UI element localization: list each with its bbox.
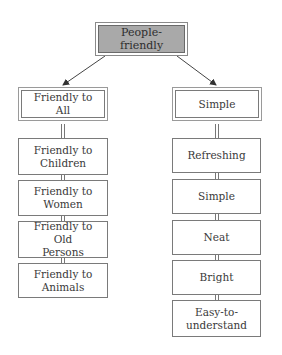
arrow-root-to-friendly-to-all — [63, 56, 105, 85]
branch-node-friendly-to-all: Friendly to All — [21, 90, 105, 118]
leaf-label: Easy-to- understand — [182, 306, 251, 332]
leaf-node-friendly-to-old-persons: Friendly to Old Persons — [18, 221, 108, 258]
leaf-label: Friendly to Old Persons — [19, 220, 107, 259]
leaf-label: Refreshing — [183, 149, 249, 162]
arrow-root-to-simple — [177, 56, 216, 85]
root-node-people-friendly: People-friendly — [98, 25, 185, 53]
leaf-node-friendly-to-animals: Friendly to Animals — [18, 263, 108, 298]
leaf-label: Simple — [194, 190, 239, 203]
leaf-label: Bright — [196, 271, 238, 284]
leaf-node-friendly-to-women: Friendly to Women — [18, 180, 108, 216]
root-label: People-friendly — [99, 26, 184, 52]
branch-node-simple: Simple — [175, 90, 259, 118]
people-friendly-diagram: People-friendly Friendly to All Friendly… — [0, 0, 282, 355]
leaf-node-refreshing: Refreshing — [172, 138, 261, 173]
leaf-node-friendly-to-children: Friendly to Children — [18, 138, 108, 175]
leaf-label: Friendly to Animals — [30, 268, 97, 294]
leaf-label: Neat — [200, 231, 234, 244]
branch-label: Simple — [195, 98, 240, 111]
leaf-label: Friendly to Children — [30, 144, 97, 170]
leaf-node-bright: Bright — [172, 260, 261, 295]
leaf-node-neat: Neat — [172, 220, 261, 255]
branch-label: Friendly to All — [22, 91, 104, 117]
leaf-label: Friendly to Women — [30, 185, 97, 211]
leaf-node-easy-to-understand: Easy-to- understand — [172, 300, 261, 337]
leaf-node-simple: Simple — [172, 179, 261, 214]
